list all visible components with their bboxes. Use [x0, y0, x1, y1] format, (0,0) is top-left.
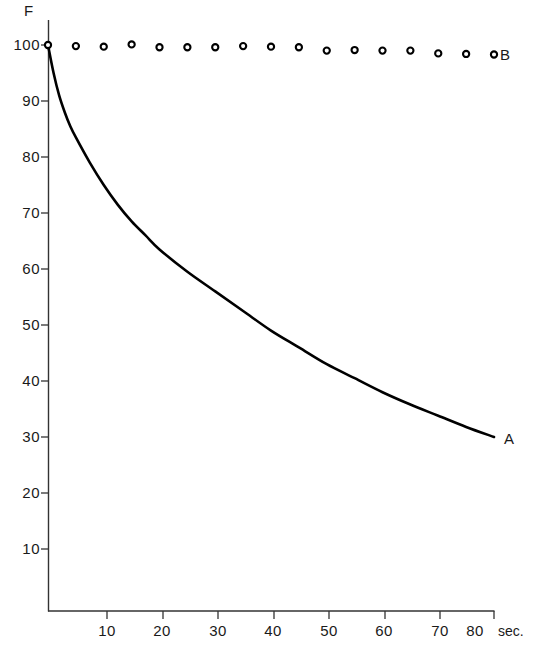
series-b-marker [156, 44, 162, 50]
series-b-marker [129, 41, 135, 47]
series-b-marker [268, 44, 274, 50]
series-b-marker [463, 51, 469, 57]
series-b-marker [45, 42, 51, 48]
y-axis-ticks [41, 45, 48, 549]
series-b-marker [352, 47, 358, 53]
series-b-marker [73, 43, 79, 49]
series-b-marker [101, 44, 107, 50]
series-b-marker [212, 44, 218, 50]
series-a-curve [48, 45, 494, 437]
series-b-marker [324, 48, 330, 54]
series-b-marker [435, 50, 441, 56]
series-b-markers [45, 41, 497, 57]
x-axis-ticks [107, 611, 494, 619]
series-b-marker [379, 48, 385, 54]
series-b-marker [296, 44, 302, 50]
series-b-marker [184, 44, 190, 50]
plot-area [0, 0, 537, 653]
chart-figure: F 100 90 80 70 60 50 40 30 20 10 10 20 3… [0, 0, 537, 653]
series-b-marker [407, 48, 413, 54]
series-b-marker [240, 43, 246, 49]
series-b-marker [491, 51, 497, 57]
